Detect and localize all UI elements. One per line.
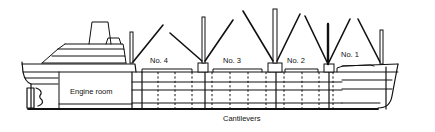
ship-diagram: Engine room <box>0 0 435 132</box>
hold-4-label: No. 4 <box>150 56 168 65</box>
hold-1-label: No. 1 <box>341 50 359 59</box>
cargo-decks <box>132 80 392 103</box>
hull <box>22 62 398 109</box>
funnel <box>89 22 111 44</box>
hatch-covers <box>142 65 374 72</box>
engine-room: Engine room <box>59 72 132 109</box>
hold-3-label: No. 3 <box>223 56 241 65</box>
superstructure <box>42 22 163 63</box>
hold-2-label: No. 2 <box>287 56 305 65</box>
aft-mast <box>130 32 133 63</box>
engine-room-label: Engine room <box>70 87 113 96</box>
masts <box>170 9 383 72</box>
cantilevers-label: Cantilevers <box>223 114 261 123</box>
propeller <box>36 88 43 106</box>
